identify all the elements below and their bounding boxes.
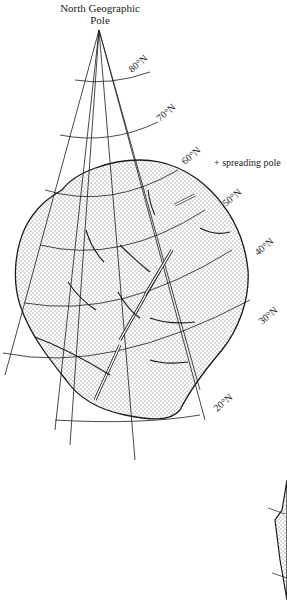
- lat-label-60: 60°N: [179, 144, 202, 166]
- lat-label-50: 50°N: [220, 186, 243, 208]
- lat-label-20: 20°N: [211, 391, 234, 413]
- plate-diagram: 80°N 70°N 60°N 50°N 40°N 30°N 20°N + spr…: [0, 0, 287, 604]
- spreading-pole-label: + spreading pole: [214, 157, 281, 168]
- partial-plate: [275, 480, 287, 600]
- lat-label-80: 80°N: [126, 52, 149, 74]
- lat-label-30: 30°N: [256, 304, 279, 326]
- plate-outline: [15, 160, 248, 419]
- lat-label-40: 40°N: [252, 235, 275, 257]
- lat-label-70: 70°N: [154, 101, 177, 123]
